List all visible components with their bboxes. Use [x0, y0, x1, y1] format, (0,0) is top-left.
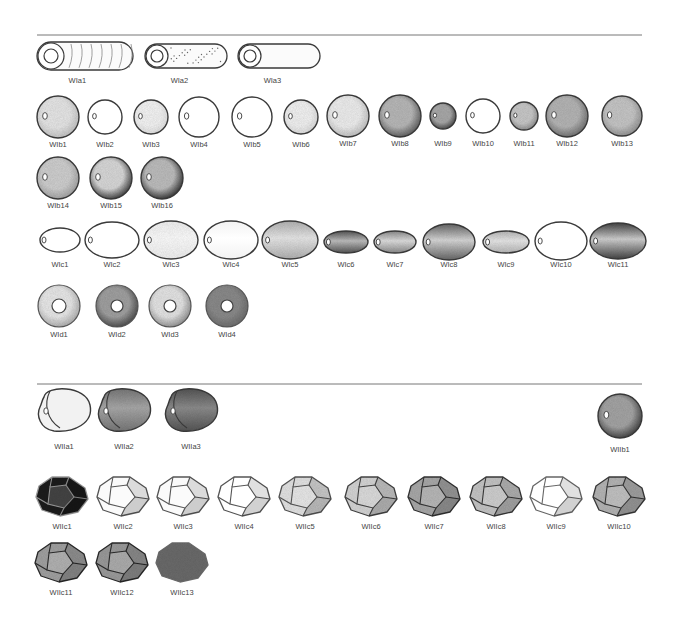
- bead-label: WIb8: [391, 139, 409, 148]
- bead-wid2: WId2: [96, 285, 138, 339]
- bead-wiic4: WIIc4: [218, 477, 270, 531]
- bead-label: WIIc10: [607, 522, 630, 531]
- bead-label: WIIb1: [610, 445, 630, 454]
- bead-wia2: WIa2: [145, 44, 227, 85]
- bead-label: WIb3: [142, 140, 160, 149]
- bead-wiib1: WIIb1: [598, 394, 642, 454]
- bead-label: WId4: [218, 330, 236, 339]
- bead-label: WIb14: [47, 201, 69, 210]
- bead-label: WId2: [108, 330, 126, 339]
- bead-label: WIc5: [281, 260, 298, 269]
- bead-wid3: WId3: [149, 285, 191, 339]
- bead-label: WIb5: [243, 140, 261, 149]
- bead-label: WIc10: [550, 260, 571, 269]
- bead-wid1: WId1: [38, 285, 80, 339]
- bead-typology-diagram: WIa1WIa2WIa3WIb1WIb2WIb3WIb4WIb5WIb6WIb7…: [0, 0, 681, 628]
- bead-label: WIIc7: [424, 522, 443, 531]
- bead-label: WIb1: [49, 140, 67, 149]
- bead-wib3: WIb3: [134, 100, 168, 149]
- bead-label: WIb16: [151, 201, 173, 210]
- bead-wid4: WId4: [206, 285, 248, 339]
- bead-wiic13: WIIc13: [156, 543, 208, 597]
- bead-label: WIb9: [434, 139, 452, 148]
- bead-label: WIIa1: [54, 442, 74, 451]
- bead-label: WIIc4: [234, 522, 253, 531]
- bead-wic4: WIc4: [204, 221, 258, 269]
- bead-wib6: WIb6: [284, 100, 318, 149]
- bead-wic8: WIc8: [423, 224, 475, 269]
- bead-label: WIb12: [556, 139, 578, 148]
- bead-label: WIIc8: [486, 522, 505, 531]
- bead-label: WIIa2: [114, 442, 134, 451]
- bead-wib14: WIb14: [37, 157, 79, 210]
- bead-label: WIc2: [103, 260, 120, 269]
- bead-label: WIc7: [386, 260, 403, 269]
- bead-label: WIb6: [292, 140, 310, 149]
- bead-wiic2: WIIc2: [97, 477, 149, 531]
- bead-label: WIIc12: [110, 588, 133, 597]
- bead-wiic11: WIIc11: [35, 543, 87, 597]
- bead-label: WIc9: [497, 260, 514, 269]
- bead-label: WIb7: [339, 139, 357, 148]
- bead-label: WIIc6: [361, 522, 380, 531]
- bead-label: WIIc5: [295, 522, 314, 531]
- bead-label: WIc3: [162, 260, 179, 269]
- bead-wiic1: WIIc1: [36, 477, 88, 531]
- bead-wia1: WIa1: [37, 42, 133, 85]
- bead-label: WIIc2: [113, 522, 132, 531]
- bead-label: WIa1: [69, 76, 87, 85]
- bead-label: WIIc11: [50, 588, 73, 597]
- bead-label: WIc11: [608, 260, 629, 269]
- bead-label: WIb13: [611, 139, 633, 148]
- bead-label: WIc4: [222, 260, 239, 269]
- bead-label: WIa2: [171, 76, 189, 85]
- bead-wib10: WIb10: [466, 99, 500, 148]
- bead-wic10: WIc10: [535, 222, 587, 269]
- bead-label: WIc6: [337, 260, 354, 269]
- bead-label: WId1: [50, 330, 68, 339]
- bead-wic9: WIc9: [483, 231, 529, 269]
- bead-label: WIc1: [51, 260, 68, 269]
- bead-label: WIb15: [100, 201, 122, 210]
- bead-label: WIIc3: [173, 522, 192, 531]
- bead-wib5: WIb5: [232, 97, 272, 149]
- bead-wib4: WIb4: [179, 97, 219, 149]
- bead-label: WIIc1: [52, 522, 71, 531]
- bead-wiia2: WIIa2: [99, 389, 151, 451]
- bead-wib7: WIb7: [327, 95, 369, 148]
- bead-wib2: WIb2: [88, 100, 122, 149]
- bead-label: WIb4: [190, 140, 208, 149]
- bead-wib1: WIb1: [37, 96, 79, 149]
- bead-wib8: WIb8: [379, 95, 421, 148]
- bead-wiia1: WIIa1: [39, 389, 91, 451]
- bead-wib12: WIb12: [546, 95, 588, 148]
- bead-label: WIIa3: [181, 442, 201, 451]
- bead-wic11: WIc11: [590, 223, 646, 269]
- bead-wib13: WIb13: [602, 96, 642, 148]
- bead-wic7: WIc7: [374, 231, 416, 269]
- bead-wiic9: WIIc9: [530, 477, 582, 531]
- bead-label: WIb10: [472, 139, 494, 148]
- bead-wib15: WIb15: [90, 157, 132, 210]
- bead-label: WIc8: [440, 260, 457, 269]
- bead-wic5: WIc5: [262, 221, 318, 269]
- bead-wiic6: WIIc6: [345, 477, 397, 531]
- bead-wiia3: WIIa3: [166, 389, 218, 451]
- bead-wiic10: WIIc10: [593, 477, 645, 531]
- bead-wia3: WIa3: [238, 44, 320, 85]
- bead-wib11: WIb11: [510, 102, 538, 148]
- bead-label: WIb2: [96, 140, 114, 149]
- bead-wic3: WIc3: [144, 221, 198, 269]
- bead-label: WIa3: [264, 76, 282, 85]
- bead-wiic7: WIIc7: [408, 477, 460, 531]
- bead-label: WIIc13: [170, 588, 193, 597]
- bead-wiic12: WIIc12: [96, 543, 148, 597]
- bead-wic6: WIc6: [324, 231, 368, 269]
- bead-label: WIIc9: [546, 522, 565, 531]
- bead-wib9: WIb9: [430, 103, 456, 148]
- bead-wib16: WIb16: [141, 157, 183, 210]
- bead-wic2: WIc2: [85, 222, 139, 269]
- bead-wiic3: WIIc3: [157, 477, 209, 531]
- bead-wiic8: WIIc8: [470, 477, 522, 531]
- bead-label: WId3: [161, 330, 179, 339]
